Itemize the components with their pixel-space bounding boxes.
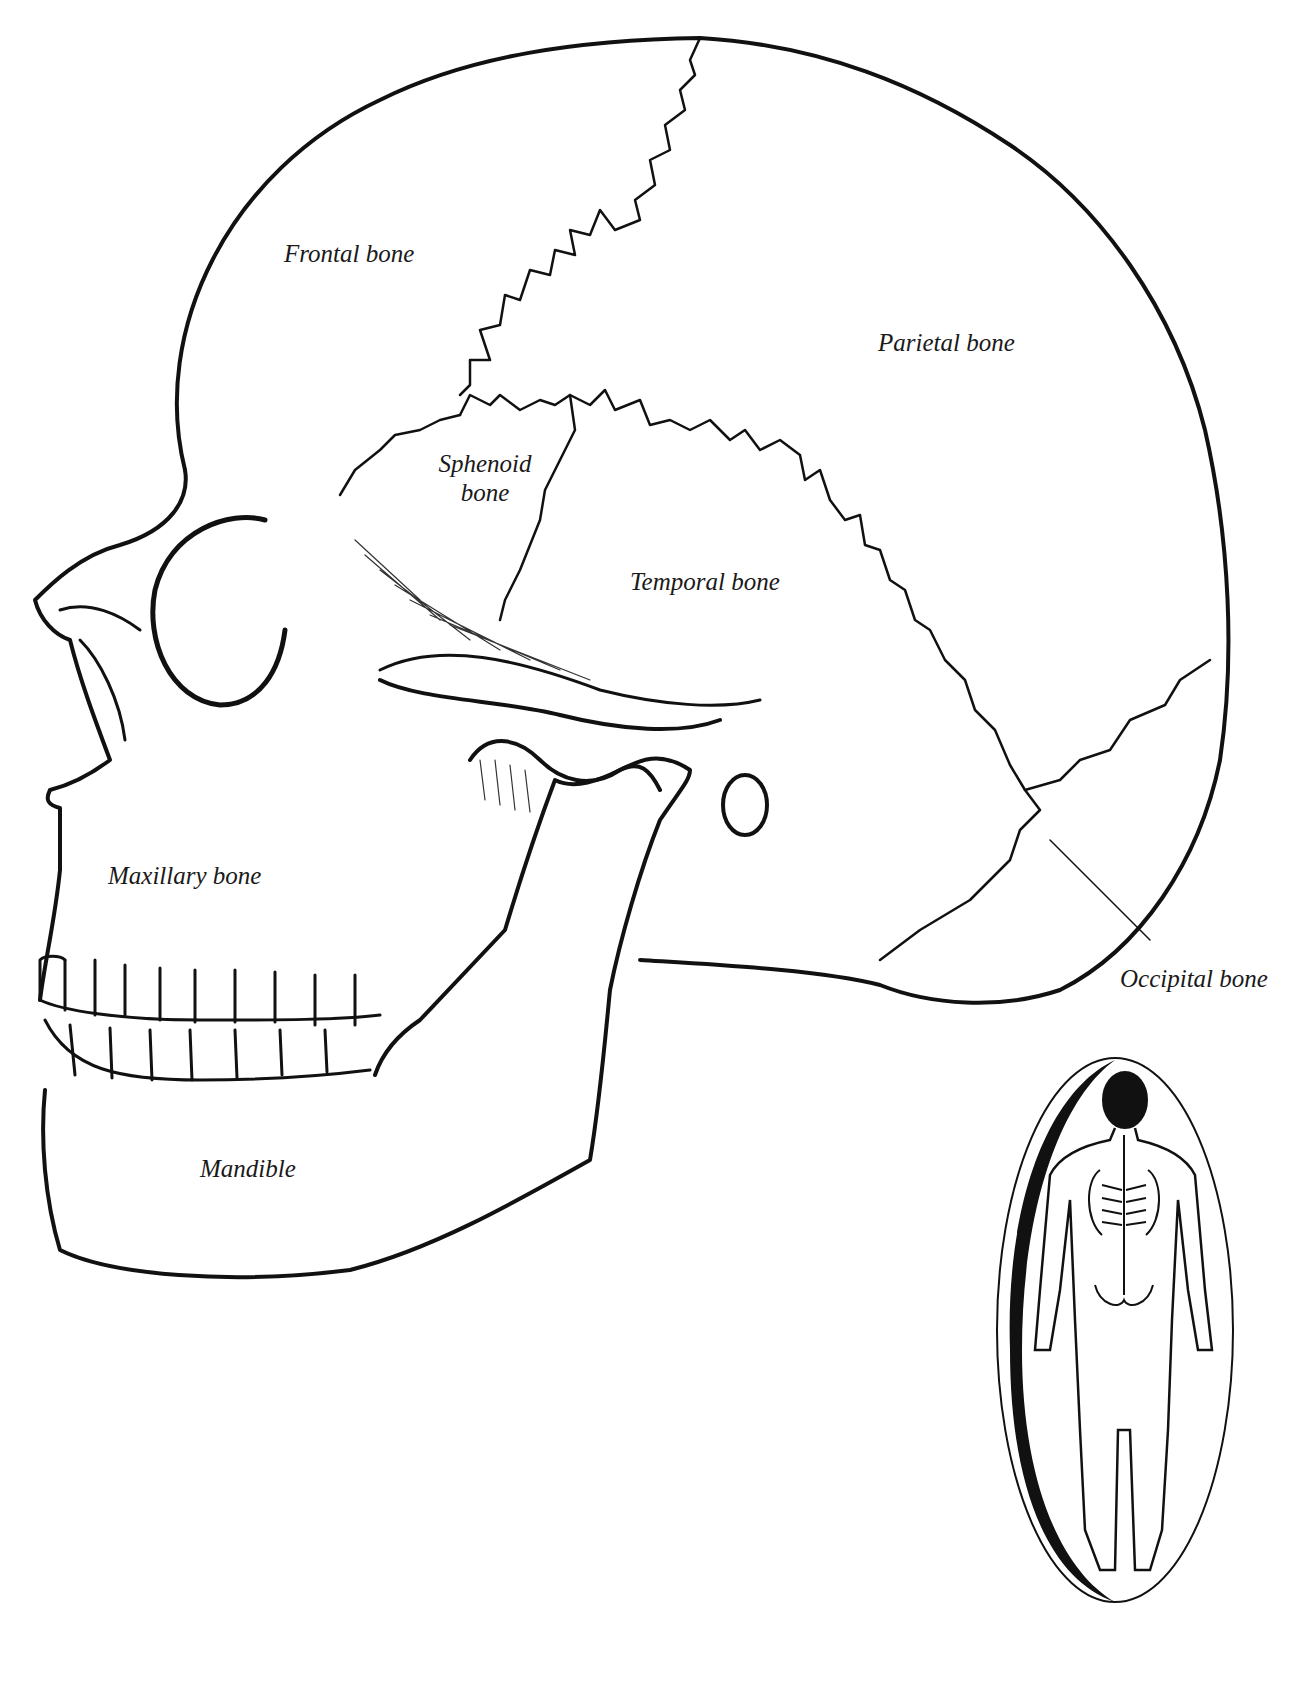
zygomatic-arch bbox=[380, 680, 720, 729]
coronal-suture bbox=[460, 38, 700, 395]
temporal-ridge bbox=[380, 655, 760, 705]
external-auditory-meatus bbox=[723, 775, 767, 835]
sphenoid-suture bbox=[340, 395, 575, 620]
label-sphenoid-line1: Sphenoid bbox=[425, 450, 545, 479]
cranium-outline bbox=[177, 38, 1229, 1003]
label-temporal-bone: Temporal bone bbox=[630, 568, 780, 597]
label-sphenoid-bone: Sphenoid bone bbox=[425, 450, 545, 508]
label-occipital-bone: Occipital bone bbox=[1120, 965, 1268, 994]
face-profile bbox=[35, 470, 186, 1000]
teeth bbox=[40, 956, 380, 1080]
skull-diagram: Frontal bone Parietal bone Sphenoid bone… bbox=[0, 0, 1309, 1700]
label-frontal-bone: Frontal bone bbox=[284, 240, 414, 269]
occipital-leader-line bbox=[1050, 840, 1150, 940]
label-sphenoid-line2: bone bbox=[425, 479, 545, 508]
inset-ribcage bbox=[1089, 1135, 1159, 1295]
label-parietal-bone: Parietal bone bbox=[878, 329, 1015, 358]
nasal-cavity bbox=[60, 607, 140, 740]
inset-skull-highlight bbox=[1103, 1072, 1147, 1128]
body-inset bbox=[990, 1050, 1240, 1610]
label-maxillary-bone: Maxillary bone bbox=[108, 862, 261, 891]
eye-orbit bbox=[153, 518, 285, 705]
label-mandible: Mandible bbox=[200, 1155, 296, 1184]
lambdoid-suture bbox=[880, 660, 1210, 960]
